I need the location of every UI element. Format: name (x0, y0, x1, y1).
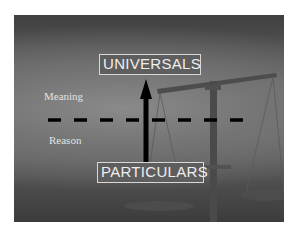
up-arrow-icon (140, 79, 152, 175)
slide: UNIVERSALS PARTICULARS Meaning Reason (14, 15, 284, 222)
meaning-label: Meaning (44, 90, 83, 102)
particulars-label: PARTICULARS (97, 162, 204, 183)
reason-label: Reason (49, 134, 81, 146)
universals-label: UNIVERSALS (99, 54, 201, 75)
